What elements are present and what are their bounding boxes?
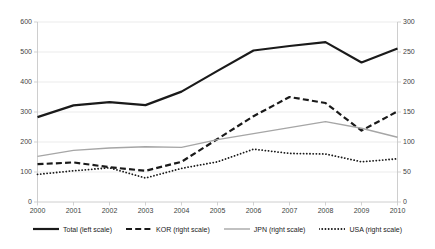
x-axis-tick-label: 2002: [95, 207, 125, 215]
legend-label: JPN (right scale): [254, 226, 306, 233]
legend-item-kor[interactable]: KOR (right scale): [126, 225, 210, 233]
series-line-kor: [38, 97, 398, 171]
x-axis-tick-label: 2008: [311, 207, 341, 215]
x-axis-tick-label: 2004: [167, 207, 197, 215]
right-axis-tick-label: 50: [403, 168, 429, 176]
legend-swatch-icon: [224, 225, 250, 233]
left-axis-tick-label: 600: [6, 18, 32, 26]
chart-legend: Total (left scale)KOR (right scale)JPN (…: [0, 225, 435, 233]
right-axis-tick-label: 150: [403, 108, 429, 116]
left-axis-tick-label: 500: [6, 48, 32, 56]
legend-swatch-icon: [319, 225, 345, 233]
right-axis-tick-label: 250: [403, 48, 429, 56]
right-axis-tick-label: 100: [403, 138, 429, 146]
legend-item-usa[interactable]: USA (right scale): [319, 225, 402, 233]
x-axis-tick-label: 2001: [59, 207, 89, 215]
legend-item-total[interactable]: Total (left scale): [33, 225, 112, 233]
series-line-usa: [38, 149, 398, 178]
left-axis-tick-label: 100: [6, 168, 32, 176]
legend-swatch-icon: [33, 225, 59, 233]
legend-label: Total (left scale): [63, 226, 112, 233]
x-axis-tick-label: 2010: [383, 207, 413, 215]
line-chart: 0100200300400500600 050100150200250300 2…: [0, 0, 435, 249]
x-axis-tick-label: 2000: [23, 207, 53, 215]
legend-item-jpn[interactable]: JPN (right scale): [224, 225, 306, 233]
left-axis-tick-label: 300: [6, 108, 32, 116]
right-axis-tick-label: 300: [403, 18, 429, 26]
left-axis-tick-label: 200: [6, 138, 32, 146]
right-axis-tick-label: 200: [403, 78, 429, 86]
legend-label: USA (right scale): [349, 226, 402, 233]
left-axis-tick-label: 0: [6, 198, 32, 206]
x-axis-tick-label: 2006: [239, 207, 269, 215]
x-axis-tick-label: 2007: [275, 207, 305, 215]
axis-lines: [34, 22, 401, 206]
series-line-jpn: [38, 122, 398, 157]
right-axis-tick-label: 0: [403, 198, 429, 206]
legend-swatch-icon: [126, 225, 152, 233]
x-axis-tick-label: 2003: [131, 207, 161, 215]
x-axis-tick-label: 2005: [203, 207, 233, 215]
series-line-total: [38, 42, 398, 117]
gridlines: [38, 22, 398, 202]
legend-label: KOR (right scale): [156, 226, 210, 233]
x-axis-tick-label: 2009: [347, 207, 377, 215]
series-lines: [38, 42, 398, 178]
left-axis-tick-label: 400: [6, 78, 32, 86]
